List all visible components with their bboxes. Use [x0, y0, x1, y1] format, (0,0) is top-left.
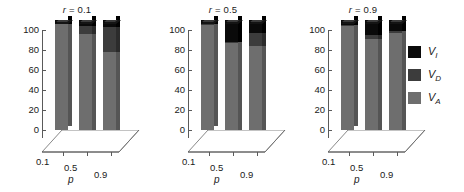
legend-swatch-vd-icon — [408, 69, 421, 81]
x-tick-3-1 — [373, 152, 374, 156]
panel-title-1-val: = 0.1 — [69, 4, 91, 15]
x-tick-3-2 — [397, 152, 398, 156]
panel-title-2-var: r — [209, 4, 212, 15]
y-label-1-1: 80 — [2, 45, 39, 55]
x-label-3-0: 0.1 — [322, 156, 335, 167]
y-label-2-5: 0 — [148, 125, 185, 135]
bar-2-p0.5 — [225, 18, 238, 132]
legend-label-va: VA — [428, 91, 441, 106]
x-tick-2-2 — [257, 152, 258, 156]
y-label-2-2: 60 — [148, 65, 185, 75]
panel-title-1: r = 0.1 — [2, 4, 152, 15]
y-tick-3-100 — [328, 30, 332, 31]
legend: VI VD VA — [408, 44, 462, 113]
y-label-2-1: 80 — [148, 45, 185, 55]
bar-1-p0.9 — [103, 16, 116, 132]
y-label-1-3: 40 — [2, 85, 39, 95]
x-tick-3-0 — [349, 152, 350, 156]
y-tick-2-20 — [188, 110, 192, 111]
floor-plane-1 — [42, 130, 140, 160]
y-tick-2-100 — [188, 30, 192, 31]
legend-swatch-vi-icon — [408, 46, 421, 58]
y-axis-line-2 — [188, 30, 189, 138]
x-tick-1-1 — [87, 152, 88, 156]
panel-title-3-val: = 0.9 — [355, 4, 377, 15]
legend-label-va-sub: A — [435, 97, 440, 106]
y-label-3-0: 100 — [288, 25, 325, 35]
x-tick-1-2 — [111, 152, 112, 156]
legend-item-vd: VD — [408, 67, 462, 90]
y-label-1-4: 20 — [2, 105, 39, 115]
y-label-2-0: 100 — [148, 25, 185, 35]
y-label-3-2: 60 — [288, 65, 325, 75]
y-tick-1-40 — [42, 90, 46, 91]
bar-3-p0.1 — [341, 20, 354, 132]
bar-1-p0.5 — [79, 18, 92, 132]
x-label-1-2: 0.9 — [94, 169, 107, 180]
legend-label-vi: VI — [428, 45, 438, 60]
x-label-1-1: 0.5 — [64, 162, 77, 173]
floor-plane-3 — [328, 130, 426, 160]
floor-plane-2 — [188, 130, 286, 160]
legend-item-vi: VI — [408, 44, 462, 67]
panel-title-2-val: = 0.5 — [215, 4, 237, 15]
y-label-1-0: 100 — [2, 25, 39, 35]
y-tick-3-60 — [328, 70, 332, 71]
y-label-1-5: 0 — [2, 125, 39, 135]
y-label-3-4: 20 — [288, 105, 325, 115]
y-tick-2-40 — [188, 90, 192, 91]
bar-3-p0.5 — [365, 18, 378, 132]
y-tick-3-20 — [328, 110, 332, 111]
x-label-3-2: 0.9 — [380, 169, 393, 180]
panel-r-0.5: r = 0.5 100 80 60 40 20 0 — [148, 0, 298, 192]
bar-1-p0.1 — [55, 20, 68, 132]
y-tick-3-40 — [328, 90, 332, 91]
panel-title-2: r = 0.5 — [148, 4, 298, 15]
y-tick-3-80 — [328, 50, 332, 51]
plot-area-2: 100 80 60 40 20 0 — [148, 22, 298, 162]
y-tick-2-80 — [188, 50, 192, 51]
panel-title-3-var: r — [349, 4, 352, 15]
legend-item-va: VA — [408, 90, 462, 113]
x-tick-1-0 — [63, 152, 64, 156]
y-label-3-1: 80 — [288, 45, 325, 55]
x-label-2-0: 0.1 — [182, 156, 195, 167]
plot-area-1: 100 80 60 40 20 0 — [2, 22, 152, 162]
legend-label-vd-sub: D — [435, 74, 441, 83]
panel-title-1-var: r — [63, 4, 66, 15]
x-label-3-1: 0.5 — [350, 162, 363, 173]
legend-label-vd: VD — [428, 68, 441, 83]
x-label-1-0: 0.1 — [36, 156, 49, 167]
panel-r-0.1: r = 0.1 100 80 60 40 20 0 — [2, 0, 152, 192]
x-tick-2-1 — [233, 152, 234, 156]
x-axis-name-2: p — [214, 174, 220, 185]
figure-stacked-3d-bar-panels: r = 0.1 100 80 60 40 20 0 — [0, 0, 464, 192]
y-tick-1-60 — [42, 70, 46, 71]
y-axis-line-3 — [328, 30, 329, 138]
y-axis-line-1 — [42, 30, 43, 138]
y-tick-2-60 — [188, 70, 192, 71]
y-label-2-3: 40 — [148, 85, 185, 95]
legend-label-vi-sub: I — [435, 51, 437, 60]
y-label-3-5: 0 — [288, 125, 325, 135]
legend-swatch-va-icon — [408, 92, 421, 104]
x-axis-name-1: p — [68, 174, 74, 185]
x-tick-2-0 — [209, 152, 210, 156]
panel-title-3: r = 0.9 — [288, 4, 438, 15]
x-label-2-1: 0.5 — [210, 162, 223, 173]
x-label-2-2: 0.9 — [240, 169, 253, 180]
y-label-3-3: 40 — [288, 85, 325, 95]
bar-3-p0.9 — [389, 16, 402, 132]
bar-2-p0.1 — [201, 20, 214, 132]
y-label-2-4: 20 — [148, 105, 185, 115]
y-tick-1-80 — [42, 50, 46, 51]
y-label-1-2: 60 — [2, 65, 39, 75]
bar-2-p0.9 — [249, 16, 262, 132]
x-axis-name-3: p — [354, 174, 360, 185]
y-tick-1-100 — [42, 30, 46, 31]
y-tick-1-20 — [42, 110, 46, 111]
